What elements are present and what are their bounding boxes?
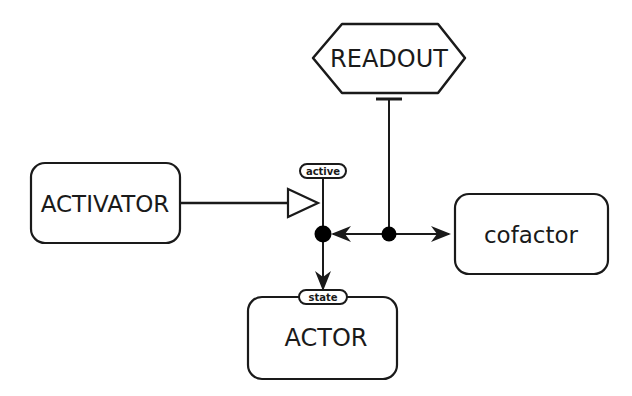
readout-label: READOUT [330, 45, 448, 73]
cofactor-label: cofactor [484, 222, 579, 248]
actor-node[interactable]: ACTOR [248, 297, 397, 379]
activator-node[interactable]: ACTIVATOR [31, 163, 180, 243]
stimulation-edge [180, 189, 318, 217]
readout-node[interactable]: READOUT [313, 24, 465, 93]
inhibition-edge [376, 99, 402, 234]
open-triangle-arrow-icon [288, 189, 318, 217]
state-variable-label: state [308, 292, 337, 303]
cofactor-node[interactable]: cofactor [455, 194, 608, 274]
association-node-dot[interactable] [382, 227, 397, 242]
active-state-label: active [306, 166, 340, 177]
activator-label: ACTIVATOR [41, 191, 170, 217]
diagram-canvas: READOUT ACTIVATOR active cofactor ACTOR [0, 0, 632, 396]
process-node-dot[interactable] [315, 226, 332, 243]
actor-label: ACTOR [285, 324, 368, 352]
active-state-pill: active [300, 164, 346, 178]
state-variable-pill: state [299, 290, 347, 304]
